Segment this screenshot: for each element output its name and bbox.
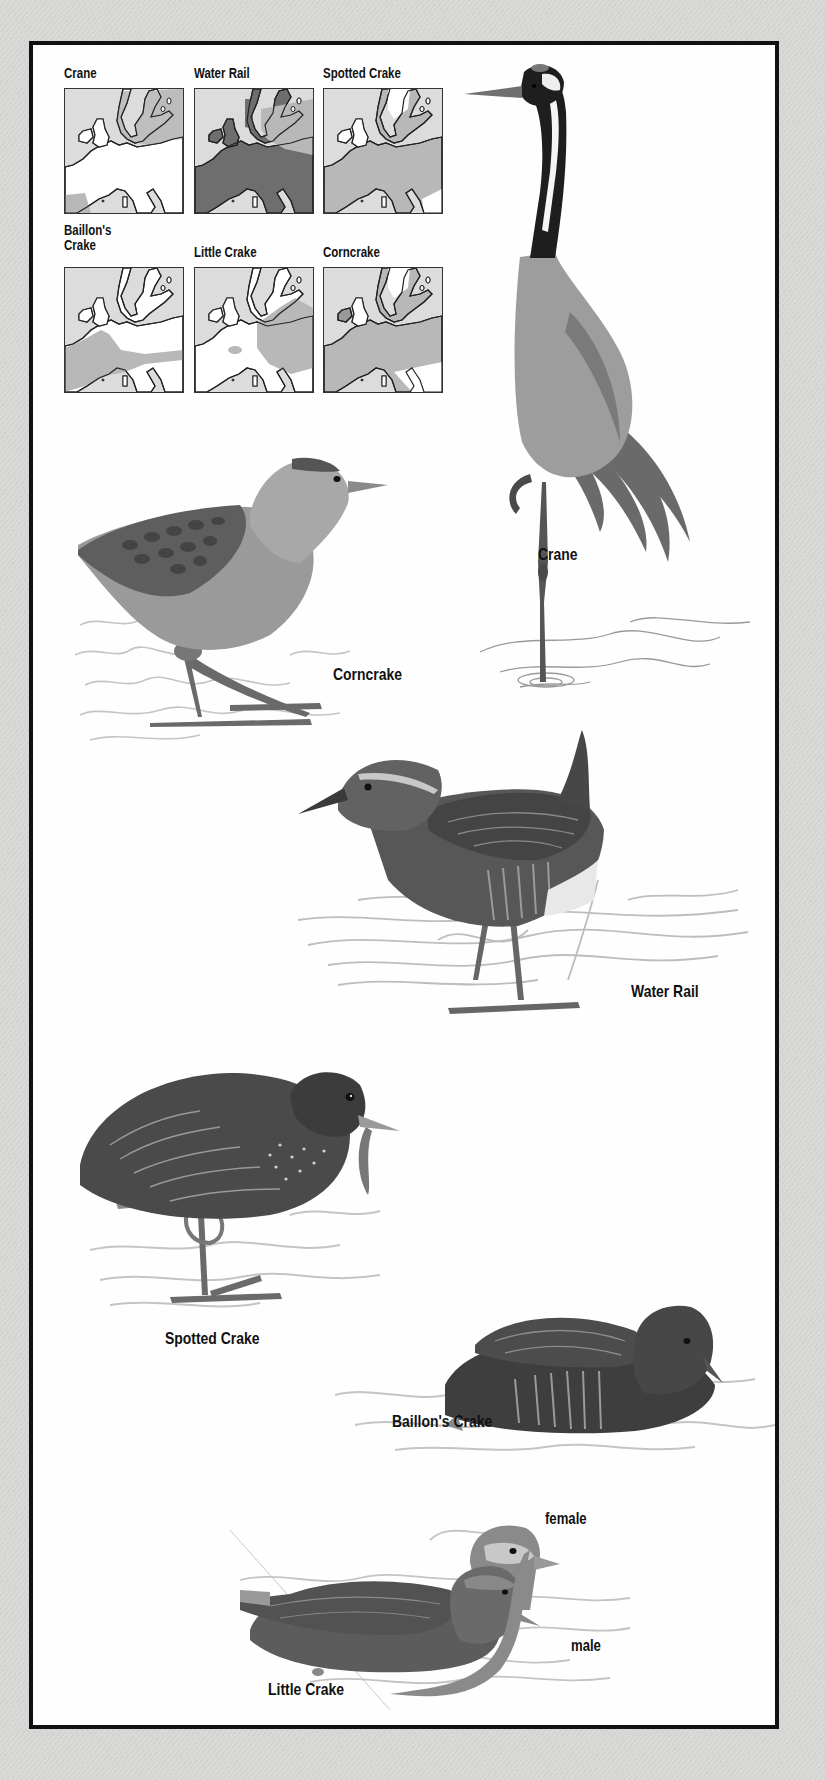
crane-illustration	[460, 62, 780, 702]
label-little-crake: Little Crake	[268, 1681, 344, 1699]
map-title-little-crake: Little Crake	[194, 245, 257, 260]
map-title-line1: Baillon's	[64, 223, 111, 238]
map-title-corncrake: Corncrake	[323, 245, 380, 260]
range-map-baillons-crake	[64, 267, 184, 393]
label-spotted-crake: Spotted Crake	[165, 1330, 260, 1348]
map-title-crane: Crane	[64, 66, 97, 81]
range-map-crane	[64, 88, 184, 214]
map-title-water-rail: Water Rail	[194, 66, 250, 81]
label-water-rail: Water Rail	[631, 983, 699, 1001]
baillons-crake-illustration	[335, 1275, 775, 1475]
range-map-corncrake	[323, 267, 443, 393]
map-title-baillons-crake: Baillon's Crake	[64, 223, 111, 252]
label-female: female	[545, 1511, 587, 1528]
map-title-spotted-crake: Spotted Crake	[323, 66, 401, 81]
label-crane: Crane	[538, 546, 578, 564]
range-map-spotted-crake	[323, 88, 443, 214]
label-male: male	[571, 1638, 601, 1655]
map-title-line2: Crake	[64, 238, 111, 253]
range-map-little-crake	[194, 267, 314, 393]
corncrake-illustration	[70, 455, 430, 775]
range-map-water-rail	[194, 88, 314, 214]
label-baillons-crake: Baillon's Crake	[392, 1413, 492, 1431]
label-corncrake: Corncrake	[333, 666, 402, 684]
